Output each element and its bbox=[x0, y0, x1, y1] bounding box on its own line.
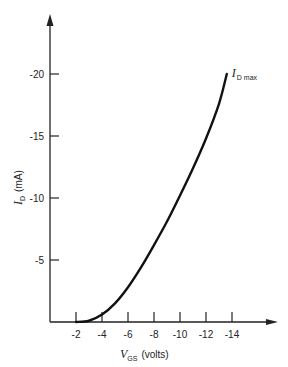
y-tick-label: -5 bbox=[35, 255, 44, 266]
x-axis-arrow-icon bbox=[266, 319, 278, 325]
x-axis-label: VGS(volts) bbox=[120, 347, 169, 362]
y-tick-label: -15 bbox=[30, 131, 45, 142]
x-ticks: -2-4-6-8-10-12-14 bbox=[72, 312, 240, 340]
x-tick-label: -4 bbox=[98, 329, 107, 340]
x-tick-label: -12 bbox=[199, 329, 214, 340]
y-axis-label: ID(mA) bbox=[11, 170, 26, 206]
axes bbox=[47, 14, 279, 325]
y-axis-arrow-icon bbox=[47, 14, 54, 26]
id-max-annotation: ID max bbox=[231, 66, 258, 81]
id-vgs-curve bbox=[76, 74, 227, 322]
x-tick-label: -2 bbox=[72, 329, 81, 340]
y-ticks: -5-10-15-20 bbox=[30, 69, 59, 266]
y-tick-label: -10 bbox=[30, 193, 45, 204]
x-tick-label: -8 bbox=[150, 329, 159, 340]
y-tick-label: -20 bbox=[30, 69, 45, 80]
x-tick-label: -14 bbox=[225, 329, 240, 340]
x-tick-label: -10 bbox=[173, 329, 188, 340]
transfer-characteristic-chart: -2-4-6-8-10-12-14 -5-10-15-20 ID max VGS… bbox=[0, 0, 288, 367]
x-tick-label: -6 bbox=[124, 329, 133, 340]
